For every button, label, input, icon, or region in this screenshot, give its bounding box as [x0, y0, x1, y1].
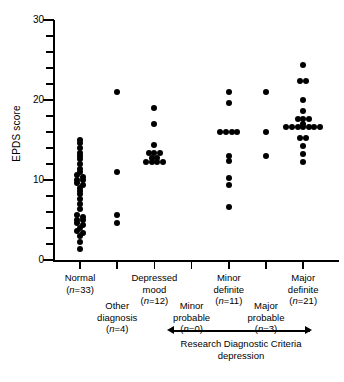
- x-category-label-line2: mood: [114, 284, 194, 296]
- x-category-label-line1: Depressed: [114, 272, 194, 284]
- rdc-bracket-line: [172, 330, 310, 332]
- y-tick-22: [46, 83, 54, 85]
- y-tick-2: [46, 243, 54, 245]
- data-point: [300, 159, 306, 165]
- x-category-label-line2: definite: [263, 284, 343, 296]
- y-axis-line: [53, 20, 55, 261]
- data-point: [77, 166, 83, 172]
- y-tick-10: [43, 179, 54, 181]
- x-category-label-line1: Major: [263, 272, 343, 284]
- y-tick-8: [46, 195, 54, 197]
- data-point: [160, 159, 166, 165]
- data-point: [317, 124, 323, 130]
- data-point: [306, 116, 312, 122]
- y-tick-26: [46, 51, 54, 53]
- y-tick-30: [43, 19, 54, 21]
- data-point: [300, 108, 306, 114]
- x-tick-depressed-mood: [154, 262, 156, 269]
- data-point: [77, 239, 83, 245]
- x-tick-major-definite: [302, 262, 304, 269]
- x-category-label-line1: Minor: [189, 272, 269, 284]
- x-category-sample-size: (n=0): [152, 323, 232, 335]
- data-point: [77, 150, 83, 156]
- data-point: [300, 151, 306, 157]
- data-point: [80, 174, 86, 180]
- data-point: [114, 89, 120, 95]
- x-tick-other-diagnosis: [116, 262, 118, 269]
- data-point: [226, 100, 232, 106]
- data-point: [234, 129, 240, 135]
- y-tick-label-20: 20: [4, 95, 44, 105]
- y-tick-24: [46, 67, 54, 69]
- data-point: [263, 89, 269, 95]
- x-category-sample-size: (n=3): [226, 323, 306, 335]
- y-tick-4: [46, 227, 54, 229]
- data-point: [114, 220, 120, 226]
- x-category-label-line2: probable: [152, 312, 232, 324]
- y-tick-18: [46, 115, 54, 117]
- data-point: [77, 246, 83, 252]
- data-point: [151, 142, 157, 148]
- data-point: [114, 212, 120, 218]
- x-category-label-line2: diagnosis: [77, 312, 157, 324]
- data-point: [300, 62, 306, 68]
- data-point: [226, 158, 232, 164]
- rdc-caption-line2: depression: [150, 350, 332, 362]
- data-point: [80, 222, 86, 228]
- data-point: [80, 230, 86, 236]
- x-category-sample-size: (n=4): [77, 323, 157, 335]
- data-point: [303, 78, 309, 84]
- x-category-label-line2: definite: [189, 284, 269, 296]
- x-tick-normal: [79, 262, 81, 269]
- data-point: [300, 97, 306, 103]
- data-point: [151, 105, 157, 111]
- data-point: [77, 206, 83, 212]
- x-category-sample-size: (n=33): [40, 284, 120, 296]
- data-point: [226, 182, 232, 188]
- y-tick-label-0: 0: [4, 255, 44, 265]
- data-point: [226, 175, 232, 181]
- x-category-label-major-definite: Majordefinite(n=21): [263, 272, 343, 307]
- x-tick-minor-definite: [228, 262, 230, 269]
- data-point: [151, 121, 157, 127]
- y-tick-14: [46, 147, 54, 149]
- data-point: [157, 150, 163, 156]
- y-tick-12: [46, 163, 54, 165]
- y-tick-label-30: 30: [4, 15, 44, 25]
- rdc-caption-line1: Research Diagnostic Criteria: [150, 338, 332, 350]
- x-category-label-line1: Normal: [40, 272, 120, 284]
- data-point: [263, 129, 269, 135]
- data-point: [80, 182, 86, 188]
- x-category-label-normal: Normal(n=33): [40, 272, 120, 295]
- x-category-label-line2: probable: [226, 312, 306, 324]
- data-point: [263, 153, 269, 159]
- y-tick-label-10: 10: [4, 175, 44, 185]
- data-point: [226, 89, 232, 95]
- y-tick-6: [46, 211, 54, 213]
- x-axis-line: [53, 260, 339, 262]
- data-point: [226, 204, 232, 210]
- x-tick-major-probable: [265, 262, 267, 269]
- rdc-arrow-right-icon: [305, 326, 312, 334]
- data-point: [80, 214, 86, 220]
- data-point: [114, 169, 120, 175]
- y-tick-0: [43, 259, 54, 261]
- x-category-sample-size: (n=21): [263, 295, 343, 307]
- data-point: [303, 135, 309, 141]
- x-tick-minor-probable: [191, 262, 193, 269]
- rdc-caption: Research Diagnostic Criteria depression: [150, 338, 332, 361]
- y-tick-28: [46, 35, 54, 37]
- y-tick-20: [43, 99, 54, 101]
- epds-dot-plot: EPDS score 0102030 Normal(n=33)Otherdiag…: [0, 0, 344, 382]
- data-point: [300, 143, 306, 149]
- y-tick-16: [46, 131, 54, 133]
